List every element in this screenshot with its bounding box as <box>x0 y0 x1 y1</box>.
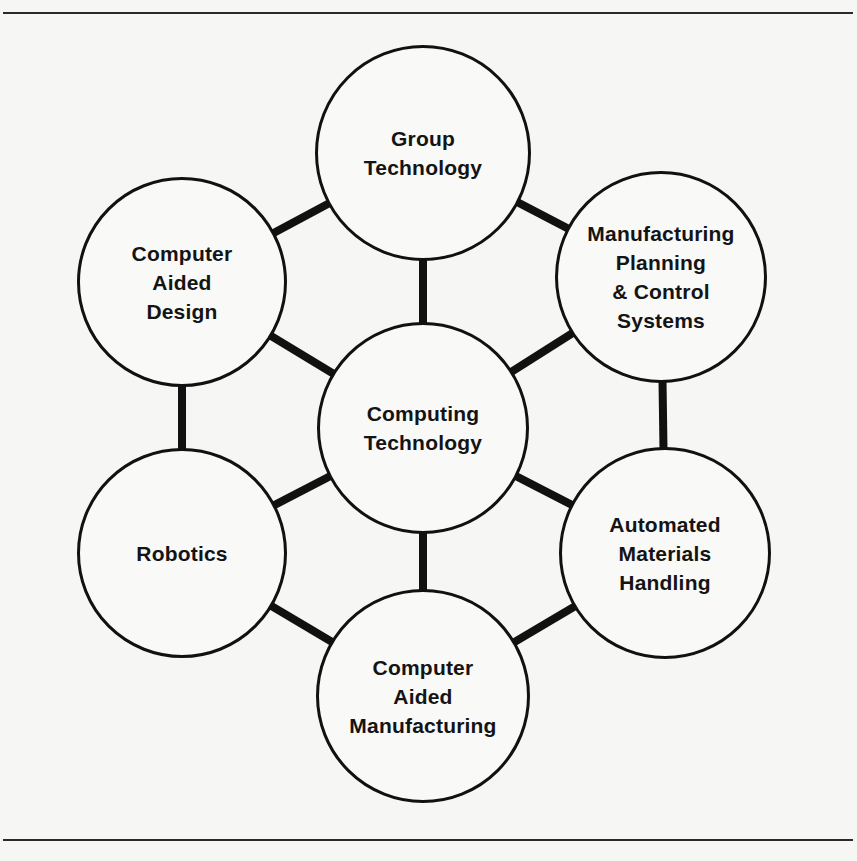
node-label: Computer Aided Manufacturing <box>349 653 496 740</box>
node-robotics: Robotics <box>77 448 287 658</box>
node-label: Computing Technology <box>364 399 482 457</box>
node-manufacturing-planning-control-systems: Manufacturing Planning & Control Systems <box>555 171 767 383</box>
node-label: Manufacturing Planning & Control Systems <box>587 219 734 335</box>
node-group-technology: Group Technology <box>315 45 531 261</box>
node-computing-technology: Computing Technology <box>317 322 529 534</box>
node-label: Computer Aided Design <box>132 239 233 326</box>
node-computer-aided-manufacturing: Computer Aided Manufacturing <box>316 589 530 803</box>
node-automated-materials-handling: Automated Materials Handling <box>559 447 771 659</box>
node-label: Robotics <box>136 539 227 568</box>
node-label: Group Technology <box>364 124 482 182</box>
node-computer-aided-design: Computer Aided Design <box>77 177 287 387</box>
node-label: Automated Materials Handling <box>609 510 720 597</box>
